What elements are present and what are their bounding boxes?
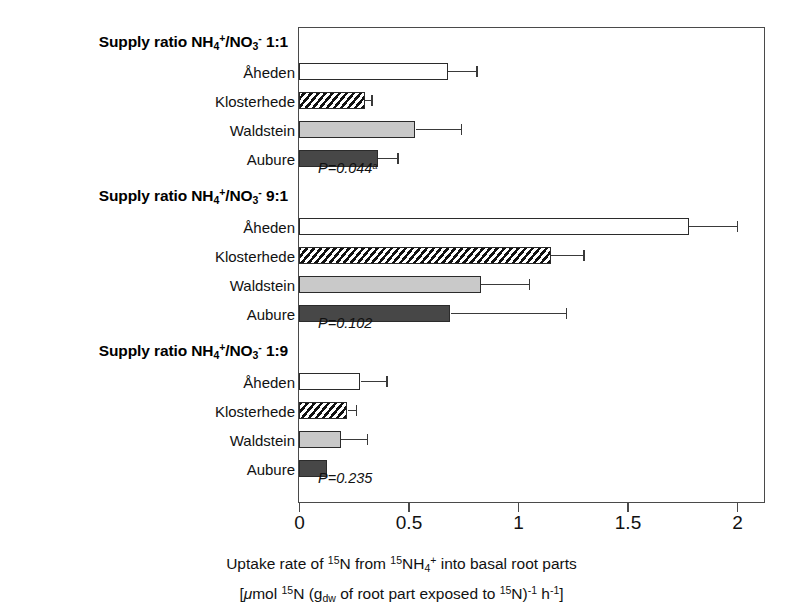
at-nh: NH [402,555,424,572]
error-bar-cap [566,308,568,319]
category-label-waldstein: Waldstein [230,432,295,449]
at-sup15b: 15 [390,554,402,566]
x-axis-title: Uptake rate of 15N from 15NH4+ into basa… [0,549,803,608]
error-bar-cap [386,376,388,387]
bar-1-9-åheden [299,373,360,390]
pvalue-group-1: P=0.044a [318,160,377,176]
at-n2: N (g [293,584,322,601]
x-tick-label-3: 1.5 [615,512,641,534]
slash-no: /NO [225,187,252,204]
category-label-aubure: Aubure [247,461,295,478]
error-bar-line [451,313,567,315]
at-dw: dw [322,591,335,603]
category-label-waldstein: Waldstein [230,122,295,139]
error-bar-line [341,439,367,441]
at-mol: mol [252,584,281,601]
bar-1-1-åheden [299,63,448,80]
error-bar-cap [529,279,531,290]
error-bar-line [689,226,737,228]
at-sup15a: 15 [328,554,340,566]
category-label-klosterhede: Klosterhede [215,403,295,420]
at-exp1: -1 [528,584,537,596]
at-mid: of root part exposed to [336,584,500,601]
slash-no: /NO [225,342,252,359]
no3-superscript: - [258,341,261,353]
bar-1-1-waldstein [299,121,415,138]
at-sup15c: 15 [281,584,293,596]
x-tick-label-1: 0.5 [396,512,422,534]
group-header-prefix: Supply ratio NH [99,342,214,359]
pvalue-superscript: a [372,161,377,171]
error-bar-cap [737,221,739,232]
x-tick-2 [518,503,520,512]
error-bar-cap [371,95,373,106]
category-label-klosterhede: Klosterhede [215,93,295,110]
error-bar-cap [356,405,358,416]
category-label-åheden: Åheden [243,219,295,236]
error-bar-line [448,71,476,73]
x-axis-title-line2: [μmol 15N (gdw of root part exposed to 1… [0,579,803,609]
pvalue-group-3: P=0.235 [318,470,372,486]
at-n3: N) [511,584,527,601]
x-axis-title-line1: Uptake rate of 15N from 15NH4+ into basa… [0,549,803,579]
error-bar-line [416,129,462,131]
category-label-waldstein: Waldstein [230,277,295,294]
plot-area [298,27,765,503]
pvalue-text: P=0.235 [318,470,372,486]
error-bar-cap [367,434,369,445]
group-header-9-1: Supply ratio NH4+/NO3- 9:1 [99,186,288,206]
at-n1: N from [340,555,391,572]
category-label-åheden: Åheden [243,64,295,81]
x-tick-label-4: 2 [732,512,743,534]
error-bar-cap [583,250,585,261]
slash-no: /NO [225,33,252,50]
bar-9-1-åheden [299,218,689,235]
group-header-prefix: Supply ratio NH [99,187,214,204]
error-bar-cap [476,66,478,77]
at-hh: h [537,584,550,601]
x-tick-1 [408,503,410,512]
category-label-klosterhede: Klosterhede [215,248,295,265]
at-tail1: into basal root parts [436,555,576,572]
at-exp2: -1 [550,584,559,596]
bar-1-9-klosterhede [299,402,347,419]
x-tick-label-2: 1 [513,512,524,534]
group-header-1-9: Supply ratio NH4+/NO3- 1:9 [99,341,288,361]
at-part1: Uptake rate of [226,555,328,572]
error-bar-line [481,284,529,286]
chart-figure: Supply ratio NH4+/NO3- 1:1 Supply ratio … [0,0,803,615]
at-sup15d: 15 [500,584,512,596]
x-tick-4 [737,503,739,512]
at-mu: μ [244,584,253,601]
error-bar-cap [461,124,463,135]
group-header-1-1: Supply ratio NH4+/NO3- 1:1 [99,32,288,52]
bar-1-9-waldstein [299,431,341,448]
x-tick-3 [627,503,629,512]
group-ratio-3: 1:9 [266,342,288,359]
at-close-bracket: ] [559,584,563,601]
error-bar-cap [397,153,399,164]
pvalue-text: P=0.102 [318,315,372,331]
error-bar-line [378,158,398,160]
pvalue-group-2: P=0.102 [318,315,372,331]
category-label-åheden: Åheden [243,374,295,391]
category-label-aubure: Aubure [247,306,295,323]
bar-1-1-klosterhede [299,92,365,109]
pvalue-text: P=0.044 [318,160,372,176]
x-tick-0 [299,503,301,512]
error-bar-line [361,381,387,383]
no3-superscript: - [258,186,261,198]
group-header-prefix: Supply ratio NH [99,33,214,50]
x-tick-label-0: 0 [294,512,305,534]
bar-9-1-klosterhede [299,247,551,264]
bar-9-1-waldstein [299,276,481,293]
group-ratio-2: 9:1 [266,187,288,204]
group-ratio-1: 1:1 [266,33,288,50]
error-bar-line [551,255,584,257]
category-label-aubure: Aubure [247,151,295,168]
no3-superscript: - [258,32,261,44]
